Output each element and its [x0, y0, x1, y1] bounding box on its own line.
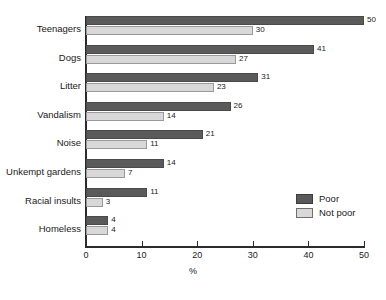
bar-not-poor [86, 226, 108, 235]
category-label: Teenagers [37, 23, 81, 34]
bar-not-poor [86, 198, 103, 207]
category-label: Vandalism [37, 109, 81, 120]
bar-poor [86, 16, 364, 25]
category-label: Noise [57, 137, 81, 148]
x-tick-label: 0 [83, 250, 88, 260]
legend-label-poor: Poor [319, 194, 339, 204]
x-axis-title: % [0, 266, 386, 276]
bar-value-label: 41 [317, 44, 326, 53]
x-tick-label: 40 [303, 250, 313, 260]
x-tick-label: 10 [137, 250, 147, 260]
bar-not-poor [86, 169, 125, 178]
horizontal-bar-chart: 01020304050 % 50304127312326142111147113… [0, 0, 386, 300]
legend-item-poor: Poor [296, 194, 355, 204]
chart-legend: Poor Not poor [296, 194, 355, 222]
category-label: Homeless [39, 223, 81, 234]
bar-value-label: 50 [367, 15, 376, 24]
poor-swatch-icon [296, 194, 313, 204]
category-label: Dogs [59, 52, 81, 63]
bar-poor [86, 216, 108, 225]
category-label: Litter [60, 80, 81, 91]
category-label: Unkempt gardens [6, 166, 81, 177]
bar-poor [86, 45, 314, 54]
bar-value-label: 7 [128, 168, 132, 177]
bar-value-label: 26 [234, 101, 243, 110]
category-label: Racial insults [25, 195, 81, 206]
x-tick [364, 241, 365, 247]
bar-not-poor [86, 55, 236, 64]
bar-value-label: 14 [167, 158, 176, 167]
bar-not-poor [86, 83, 214, 92]
bar-value-label: 23 [217, 82, 226, 91]
legend-label-not-poor: Not poor [319, 208, 355, 218]
bar-value-label: 11 [150, 139, 158, 148]
bar-not-poor [86, 26, 253, 35]
bar-value-label: 4 [111, 225, 115, 234]
bar-value-label: 14 [167, 111, 176, 120]
bar-poor [86, 130, 203, 139]
bar-poor [86, 188, 147, 197]
not-poor-swatch-icon [296, 208, 313, 218]
bar-value-label: 3 [106, 197, 110, 206]
bar-poor [86, 73, 258, 82]
legend-item-not-poor: Not poor [296, 208, 355, 218]
bar-not-poor [86, 140, 147, 149]
x-tick-label: 50 [359, 250, 369, 260]
bar-not-poor [86, 112, 164, 121]
bar-value-label: 27 [239, 54, 248, 63]
bar-value-label: 11 [150, 187, 158, 196]
bar-value-label: 4 [111, 215, 115, 224]
bar-value-label: 21 [206, 129, 215, 138]
bar-value-label: 30 [256, 25, 265, 34]
bar-poor [86, 102, 231, 111]
bar-value-label: 31 [261, 72, 270, 81]
x-tick-label: 20 [192, 250, 202, 260]
bar-poor [86, 159, 164, 168]
x-axis-line [85, 246, 365, 248]
x-tick-label: 30 [248, 250, 258, 260]
